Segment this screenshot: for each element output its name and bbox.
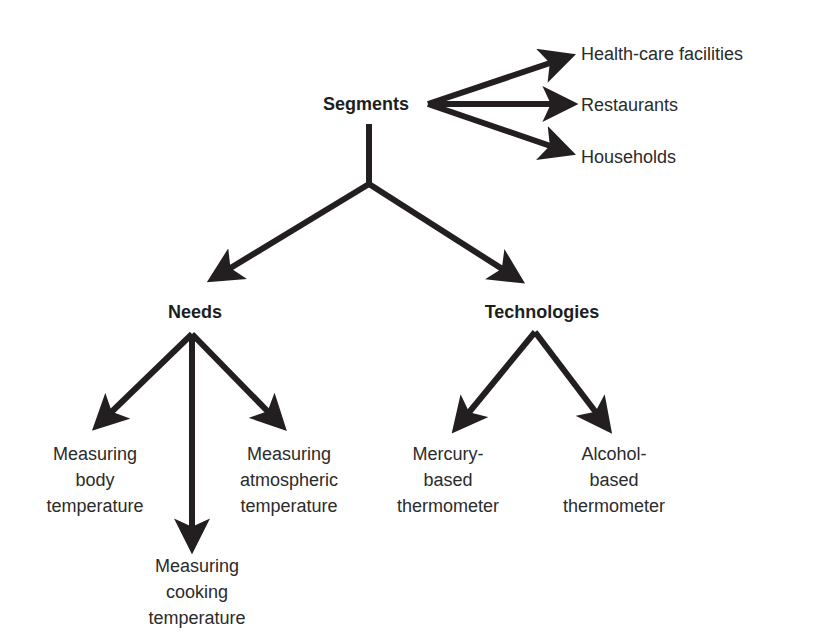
arrow-to-atmospheric-temp [192, 334, 281, 425]
arrow-to-health-care [428, 57, 568, 104]
label-line: temperature [240, 493, 338, 519]
label-line: temperature [148, 605, 245, 631]
node-alcohol-based-thermometer: Alcohol- based thermometer [563, 441, 665, 519]
label-line: based [563, 467, 665, 493]
label-line: Measuring [46, 441, 143, 467]
arrow-to-needs [214, 184, 369, 278]
node-health-care-facilities: Health-care facilities [581, 41, 743, 67]
node-measuring-body-temperature: Measuring body temperature [46, 441, 143, 519]
node-segments: Segments [323, 91, 409, 117]
label-line: body [46, 467, 143, 493]
arrow-to-alcohol [535, 332, 607, 427]
node-households: Households [581, 144, 676, 170]
label-line: cooking [148, 579, 245, 605]
label-line: temperature [46, 493, 143, 519]
node-mercury-based-thermometer: Mercury- based thermometer [397, 441, 499, 519]
diagram-canvas: Segments Health-care facilities Restaura… [0, 0, 814, 644]
arrow-to-mercury [457, 332, 535, 427]
node-restaurants: Restaurants [581, 92, 678, 118]
node-measuring-cooking-temperature: Measuring cooking temperature [148, 553, 245, 631]
label-line: thermometer [563, 493, 665, 519]
arrow-to-households [428, 104, 568, 152]
node-needs: Needs [168, 299, 222, 325]
label-line: Measuring [240, 441, 338, 467]
label-line: Alcohol- [563, 441, 665, 467]
arrow-to-body-temp [98, 334, 192, 425]
label-line: Measuring [148, 553, 245, 579]
node-measuring-atmospheric-temperature: Measuring atmospheric temperature [240, 441, 338, 519]
arrow-to-technologies [369, 184, 518, 279]
label-line: based [397, 467, 499, 493]
label-line: atmospheric [240, 467, 338, 493]
label-line: thermometer [397, 493, 499, 519]
label-line: Mercury- [397, 441, 499, 467]
node-technologies: Technologies [485, 299, 600, 325]
